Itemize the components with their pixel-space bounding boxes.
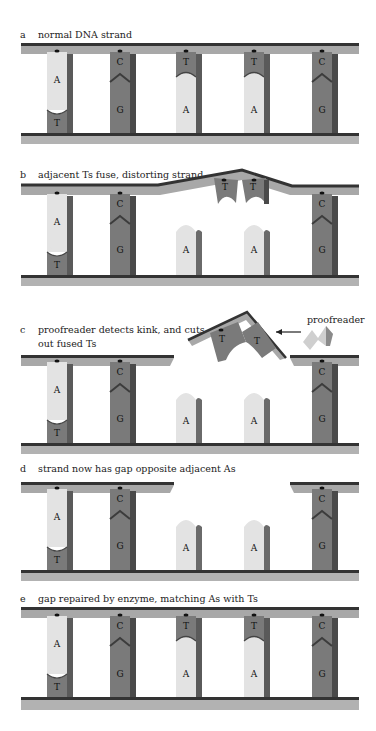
svg-text:C: C	[319, 199, 326, 209]
panel-d-caption: strand now has gap opposite adjacent As	[38, 463, 236, 474]
svg-text:G: G	[318, 669, 325, 679]
svg-text:T: T	[254, 336, 260, 346]
svg-text:T: T	[54, 118, 60, 128]
svg-text:G: G	[318, 541, 325, 551]
svg-text:A: A	[53, 512, 61, 522]
panel-e: e gap repaired by enzyme, matching As wi…	[20, 593, 359, 710]
svg-text:A: A	[250, 416, 258, 426]
svg-text:C: C	[117, 494, 124, 504]
panel-c-caption-line1: proofreader detects kink, and cuts	[38, 324, 205, 335]
svg-text:G: G	[116, 669, 123, 679]
svg-text:T: T	[219, 334, 225, 344]
svg-text:A: A	[182, 669, 190, 679]
svg-text:C: C	[319, 57, 326, 67]
panel-a-caption: normal DNA strand	[38, 29, 132, 40]
svg-text:T: T	[251, 621, 257, 631]
panel-c-letter: c	[20, 324, 25, 335]
svg-text:C: C	[117, 367, 124, 377]
svg-text:A: A	[182, 245, 190, 255]
svg-text:A: A	[250, 669, 258, 679]
panel-c-caption-line2: out fused Ts	[38, 338, 97, 349]
panel-e-letter: e	[20, 593, 26, 604]
svg-text:T: T	[183, 621, 189, 631]
panel-a: a normal DNA strand A T C G T A T A C G	[20, 29, 359, 144]
svg-text:A: A	[182, 416, 190, 426]
svg-text:G: G	[318, 105, 325, 115]
svg-text:A: A	[182, 105, 190, 115]
proofreader-enzyme	[303, 326, 333, 350]
svg-text:A: A	[182, 543, 190, 553]
svg-text:C: C	[319, 367, 326, 377]
svg-text:T: T	[54, 260, 60, 270]
svg-text:A: A	[53, 385, 61, 395]
svg-text:T: T	[54, 682, 60, 692]
panel-a-letter: a	[20, 29, 26, 40]
panel-b: b adjacent Ts fuse, distorting strand T …	[20, 169, 359, 286]
svg-text:G: G	[116, 541, 123, 551]
svg-text:A: A	[53, 217, 61, 227]
panel-d: d strand now has gap opposite adjacent A…	[20, 463, 359, 581]
svg-text:C: C	[117, 621, 124, 631]
fused-thymines: T T	[214, 178, 269, 204]
svg-text:T: T	[183, 57, 189, 67]
dna-repair-diagram: a normal DNA strand A T C G T A T A C G …	[0, 0, 376, 731]
proofreader-label: proofreader	[307, 314, 365, 325]
panel-b-caption: adjacent Ts fuse, distorting strand	[38, 169, 203, 180]
base-A: A	[53, 75, 61, 85]
svg-text:G: G	[318, 245, 325, 255]
svg-text:A: A	[53, 639, 61, 649]
panel-e-caption: gap repaired by enzyme, matching As with…	[38, 593, 258, 604]
svg-text:T: T	[222, 182, 228, 192]
svg-text:C: C	[117, 57, 124, 67]
svg-text:C: C	[319, 621, 326, 631]
arrow-head-icon	[276, 329, 282, 335]
svg-text:G: G	[116, 105, 123, 115]
panel-b-letter: b	[20, 169, 26, 180]
svg-text:G: G	[116, 414, 123, 424]
svg-text:C: C	[319, 494, 326, 504]
svg-text:C: C	[117, 199, 124, 209]
panel-c: c proofreader detects kink, and cuts out…	[20, 312, 365, 454]
excised-fragment: T T	[188, 312, 286, 362]
svg-text:G: G	[318, 414, 325, 424]
svg-text:G: G	[116, 245, 123, 255]
svg-text:A: A	[250, 543, 258, 553]
svg-text:T: T	[251, 57, 257, 67]
svg-text:T: T	[54, 428, 60, 438]
svg-text:A: A	[250, 105, 258, 115]
panel-d-letter: d	[20, 463, 26, 474]
svg-text:T: T	[250, 182, 256, 192]
svg-text:T: T	[54, 555, 60, 565]
svg-text:A: A	[250, 245, 258, 255]
